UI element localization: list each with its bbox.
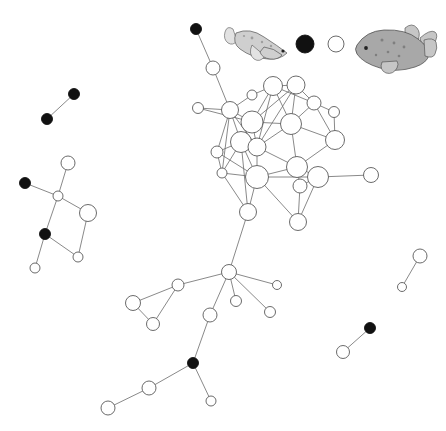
graph-node[interactable] <box>264 77 283 96</box>
legend-fish-slender-icon <box>224 28 287 61</box>
graph-node[interactable] <box>42 114 53 125</box>
graph-node[interactable] <box>142 381 156 395</box>
graph-node[interactable] <box>203 308 217 322</box>
graph-node[interactable] <box>80 205 97 222</box>
graph-node[interactable] <box>248 138 266 156</box>
graph-node[interactable] <box>337 346 350 359</box>
legend-node-filled <box>296 35 314 53</box>
graph-node[interactable] <box>365 323 376 334</box>
graph-node[interactable] <box>398 283 407 292</box>
graph-node[interactable] <box>246 166 269 189</box>
graph-node[interactable] <box>413 249 427 263</box>
graph-node[interactable] <box>290 214 307 231</box>
graph-node[interactable] <box>53 191 63 201</box>
graph-edge <box>193 363 211 401</box>
graph-node[interactable] <box>20 178 31 189</box>
graph-node[interactable] <box>231 296 242 307</box>
graph-node[interactable] <box>308 167 329 188</box>
graph-node[interactable] <box>147 318 160 331</box>
graph-node[interactable] <box>172 279 184 291</box>
graph-node[interactable] <box>126 296 141 311</box>
network-graph-figure <box>0 0 446 431</box>
graph-node[interactable] <box>206 396 216 406</box>
graph-edge <box>149 363 193 388</box>
graph-node[interactable] <box>287 157 308 178</box>
graph-node[interactable] <box>222 102 239 119</box>
graph-edge <box>45 196 58 234</box>
graph-edge <box>229 212 248 272</box>
legend-fish-stocky-icon <box>356 25 437 73</box>
graph-node[interactable] <box>307 96 321 110</box>
graph-node[interactable] <box>364 168 379 183</box>
graph-node[interactable] <box>191 24 202 35</box>
graph-node[interactable] <box>265 307 276 318</box>
graph-node[interactable] <box>217 168 227 178</box>
graph-node[interactable] <box>101 401 115 415</box>
nodes-layer <box>20 24 428 416</box>
graph-canvas <box>0 0 446 431</box>
graph-node[interactable] <box>287 76 305 94</box>
graph-node[interactable] <box>281 114 302 135</box>
graph-node[interactable] <box>273 281 282 290</box>
graph-node[interactable] <box>40 229 51 240</box>
graph-node[interactable] <box>69 89 80 100</box>
graph-node[interactable] <box>30 263 40 273</box>
graph-node[interactable] <box>247 90 257 100</box>
graph-node[interactable] <box>206 61 220 75</box>
graph-node[interactable] <box>193 103 204 114</box>
graph-edge <box>193 315 210 363</box>
graph-node[interactable] <box>211 146 223 158</box>
graph-node[interactable] <box>326 131 345 150</box>
graph-node[interactable] <box>188 358 199 369</box>
graph-node[interactable] <box>241 111 263 133</box>
graph-node[interactable] <box>293 179 307 193</box>
graph-node[interactable] <box>222 265 237 280</box>
graph-node[interactable] <box>329 107 340 118</box>
graph-node[interactable] <box>61 156 75 170</box>
graph-node[interactable] <box>240 204 257 221</box>
legend-node-open <box>328 36 344 52</box>
graph-edge <box>45 234 78 257</box>
legend <box>224 25 436 73</box>
graph-edge <box>222 110 230 173</box>
graph-node[interactable] <box>73 252 83 262</box>
